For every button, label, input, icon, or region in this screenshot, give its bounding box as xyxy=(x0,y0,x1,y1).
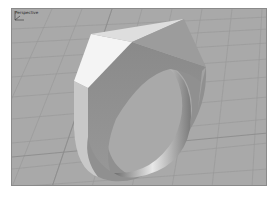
world-axes-icon xyxy=(12,9,26,23)
perspective-viewport[interactable]: Perspective xyxy=(11,8,267,186)
viewport-canvas[interactable] xyxy=(12,9,267,186)
